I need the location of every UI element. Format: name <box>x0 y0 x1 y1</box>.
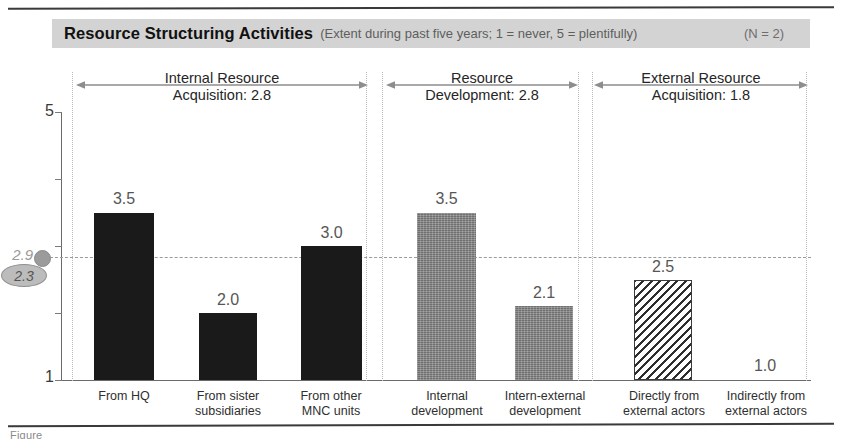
x-axis-line <box>61 380 811 381</box>
group-separator <box>578 72 579 381</box>
bar-from-other-mnc-units[interactable] <box>301 246 362 380</box>
bar-value-label: 2.0 <box>199 291 257 309</box>
bar-value-label: 1.0 <box>736 357 794 375</box>
bar-value-label: 3.0 <box>301 224 362 242</box>
page-bottom-rule <box>8 423 834 428</box>
x-axis-label-intern-external-development: Intern-external development <box>495 389 595 419</box>
bar-value-label: 2.5 <box>634 258 692 276</box>
bar-internal-development[interactable] <box>417 213 476 381</box>
page-top-rule <box>8 6 834 10</box>
group-span-arrow-1 <box>76 80 368 90</box>
y-axis-tick-mark <box>55 313 62 314</box>
figure-caption-partial: Figure <box>10 429 210 439</box>
bar-intern-external-development[interactable] <box>515 306 573 380</box>
bar-value-label: 2.1 <box>515 284 573 302</box>
page-title: Resource Structuring Activities <box>64 24 313 43</box>
x-axis-label-from-other-mnc-units: From other MNC units <box>285 389 377 419</box>
bar-value-label: 3.5 <box>417 190 476 208</box>
group-span-arrow-3 <box>594 80 808 90</box>
y-axis-tick-bottom: 1 <box>20 368 54 386</box>
group-separator <box>72 72 73 381</box>
y-axis-tick-mark <box>55 179 62 180</box>
x-axis-label-from-sister-subsidiaries: From sister subsidiaries <box>182 389 274 419</box>
group-separator <box>382 72 383 381</box>
group-separator <box>592 72 593 381</box>
x-axis-label-directly-from-external-actors: Directly from external actors <box>614 389 714 419</box>
y-axis-tick-mark <box>55 246 62 247</box>
bar-indirectly-from-external-actors[interactable] <box>736 379 794 380</box>
annotation-badge-2-3: 2.3 <box>1 264 47 287</box>
bar-directly-from-external-actors[interactable] <box>634 280 692 381</box>
y-axis-tick-mark <box>55 380 62 381</box>
chart-subtitle: (Extent during past five years; 1 = neve… <box>320 26 637 41</box>
x-axis-label-from-hq: From HQ <box>78 389 170 404</box>
y-axis-tick-mark <box>55 112 62 113</box>
chart-title-band: Resource Structuring Activities (Extent … <box>52 19 810 48</box>
bar-from-sister-subsidiaries[interactable] <box>199 313 257 380</box>
bar-from-hq[interactable] <box>94 213 154 381</box>
group-separator <box>806 72 807 381</box>
group-span-arrow-2 <box>386 80 578 90</box>
group-separator <box>366 72 367 381</box>
y-axis-tick-top: 5 <box>20 102 54 120</box>
x-axis-label-indirectly-from-external-actors: Indirectly from external actors <box>716 389 816 419</box>
reference-marker-dot <box>34 250 51 267</box>
sample-size-note: (N = 2) <box>744 26 798 41</box>
bar-value-label: 3.5 <box>94 190 154 208</box>
reference-value-label: 2.9 <box>0 246 33 263</box>
x-axis-label-internal-development: Internal development <box>400 389 494 419</box>
